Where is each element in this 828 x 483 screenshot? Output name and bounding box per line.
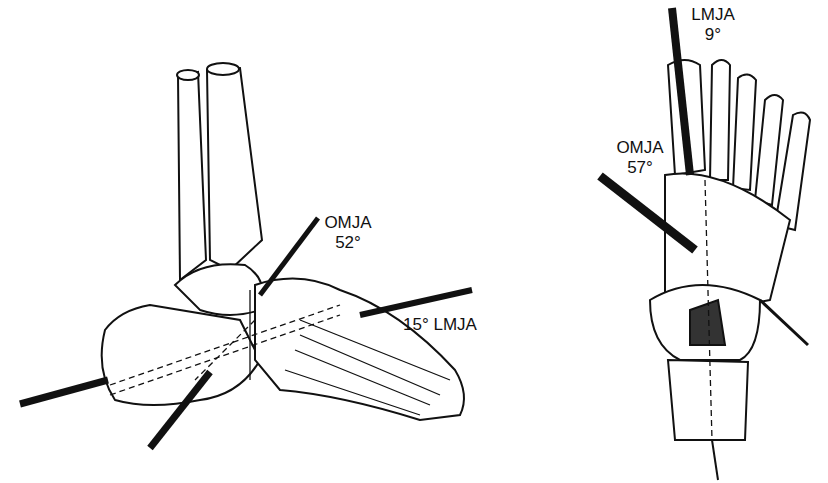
lmja-name: LMJA xyxy=(688,5,738,25)
omja-name: OMJA xyxy=(610,138,670,158)
omja-label-lateral: OMJA 52° xyxy=(318,213,378,253)
lateral-foot-illustration xyxy=(102,63,464,420)
omja-name: OMJA xyxy=(318,213,378,233)
wire xyxy=(20,380,108,404)
omja-label-dorsal: OMJA 57° xyxy=(610,138,670,178)
lmja-angle: 9° xyxy=(688,25,738,45)
omja-angle: 57° xyxy=(610,158,670,178)
lmja-label-lateral: 15° LMJA xyxy=(390,315,490,335)
foot-diagram xyxy=(0,0,828,483)
lmja-label-dorsal: LMJA 9° xyxy=(688,5,738,45)
omja-angle: 52° xyxy=(318,233,378,253)
dorsal-foot-illustration xyxy=(650,60,810,440)
